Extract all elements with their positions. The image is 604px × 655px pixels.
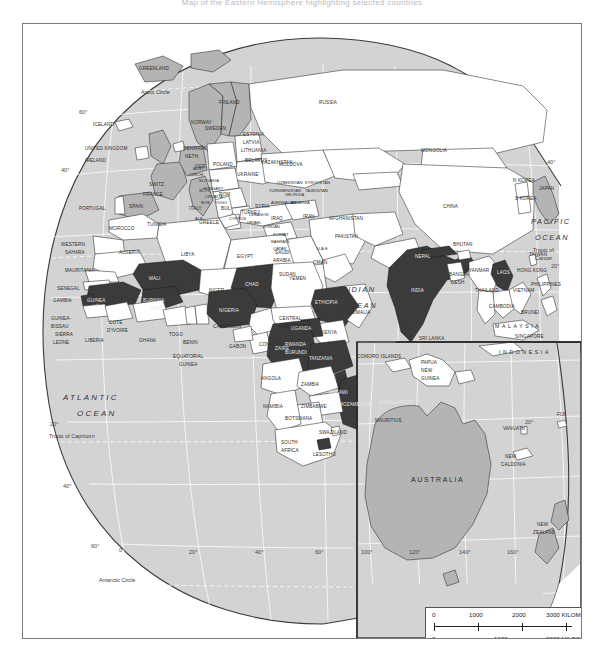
svg-text:100°: 100° [361,549,373,555]
svg-text:NEPAL: NEPAL [415,254,431,259]
svg-text:MALAWI: MALAWI [329,390,348,395]
svg-text:CAMBODIA: CAMBODIA [489,304,515,309]
svg-text:MAURITIUS: MAURITIUS [375,418,402,423]
svg-text:CZECH: CZECH [189,172,203,177]
svg-text:SPAIN: SPAIN [129,204,143,209]
svg-text:CHINA: CHINA [443,204,459,209]
svg-text:PAPUA: PAPUA [421,360,438,365]
svg-text:60°: 60° [315,549,323,555]
scale-km-3000: 3000 KILOMETERS [546,611,582,618]
svg-text:UGANDA: UGANDA [291,326,312,331]
svg-text:SLOV.: SLOV. [199,188,211,193]
svg-text:40°: 40° [61,167,69,173]
svg-text:ROM.: ROM. [219,192,232,197]
svg-text:GEORGIA: GEORGIA [285,192,304,197]
svg-text:LAOS: LAOS [497,270,510,275]
svg-text:YUGO.: YUGO. [215,200,228,205]
svg-text:ESTONIA: ESTONIA [243,132,265,137]
svg-text:BURKINA: BURKINA [143,298,165,303]
svg-text:60°: 60° [79,109,87,115]
svg-text:TAIWAN: TAIWAN [529,252,547,257]
svg-text:GHANA: GHANA [139,338,157,343]
svg-text:20°: 20° [525,419,533,425]
scale-mi-2000: 2000 MILES [546,635,580,639]
svg-text:GUINEA: GUINEA [421,376,440,381]
svg-text:S KOREA: S KOREA [515,196,537,201]
svg-text:JAPAN: JAPAN [539,186,554,191]
svg-text:KAZAKHSTAN: KAZAKHSTAN [261,160,293,165]
svg-text:AUST.: AUST. [193,166,205,171]
svg-text:RUSSIA: RUSSIA [319,100,338,105]
svg-text:GUINEA: GUINEA [179,362,198,367]
svg-text:FRANCE: FRANCE [143,192,163,197]
svg-text:20°: 20° [551,263,559,269]
svg-text:BUL.: BUL. [221,206,232,211]
svg-text:SWITZ.: SWITZ. [149,182,165,187]
svg-text:MOZAMBIQUE: MOZAMBIQUE [339,402,372,407]
map-frame: ATLANTIC OCEAN INDIAN OCEAN PACIFIC OCEA… [22,23,582,639]
svg-text:OCEAN: OCEAN [77,409,116,418]
svg-text:160°: 160° [507,549,519,555]
svg-text:40°: 40° [255,549,263,555]
svg-text:UKRAINE: UKRAINE [237,172,258,177]
svg-text:CAMEROON: CAMEROON [213,324,241,329]
svg-text:VIETNAM: VIETNAM [513,288,534,293]
svg-text:IRAN: IRAN [303,214,315,219]
svg-text:FASO: FASO [151,306,164,311]
svg-text:DESH: DESH [451,280,464,285]
svg-text:OCEAN: OCEAN [535,233,569,242]
svg-text:120°: 120° [409,549,421,555]
svg-text:MYANMAR: MYANMAR [465,268,490,273]
svg-text:GABON: GABON [229,344,246,349]
scale-mi-0: 0 [432,635,435,639]
svg-text:TUNISIA: TUNISIA [147,222,167,227]
scale-bar-graphic [434,623,572,631]
scale-km-2000: 2000 [512,611,526,618]
svg-text:N KOREA: N KOREA [513,178,536,183]
scale-km-0: 0 [432,611,435,618]
svg-text:BRUNEI: BRUNEI [521,310,539,315]
map-title: Map of the Eastern Hemisphere highlighti… [0,0,604,7]
svg-text:QATAR: QATAR [273,246,287,251]
svg-text:AZERBAIJAN: AZERBAIJAN [271,200,296,205]
svg-text:ARABIA: ARABIA [273,258,292,263]
svg-text:BOTSWANA: BOTSWANA [285,416,313,421]
svg-text:ZAMBIA: ZAMBIA [301,382,320,387]
svg-text:40°: 40° [63,483,71,489]
svg-text:SOMALIA: SOMALIA [349,310,371,315]
world-map-svg: ATLANTIC OCEAN INDIAN OCEAN PACIFIC OCEA… [23,24,581,638]
svg-text:BOS.: BOS. [201,200,211,205]
svg-text:UZBEKISTAN: UZBEKISTAN [277,180,302,185]
svg-text:40°: 40° [547,159,555,165]
svg-text:SIERRA: SIERRA [55,332,74,337]
scale-bar: 0 1000 2000 3000 KILOMETERS 0 1000 2000 … [425,607,582,639]
svg-text:0°: 0° [119,547,124,553]
svg-text:LIBYA: LIBYA [181,252,195,257]
svg-text:KUWAIT: KUWAIT [273,232,289,237]
svg-text:POLAND: POLAND [213,162,233,167]
svg-text:NIGER: NIGER [209,288,225,293]
inset-content [358,342,580,638]
svg-text:WESTERN: WESTERN [61,242,85,247]
svg-text:NEW: NEW [537,522,549,527]
svg-text:NEW: NEW [421,368,433,373]
svg-text:GUINEA: GUINEA [87,298,106,303]
svg-text:HONG KONG: HONG KONG [517,268,547,273]
svg-text:NAMIBIA: NAMIBIA [263,404,284,409]
svg-text:KYRGYSTAN: KYRGYSTAN [305,180,330,185]
svg-text:IRELAND: IRELAND [85,158,106,163]
svg-text:UNITED KINGDOM: UNITED KINGDOM [85,146,127,151]
svg-text:NIGERIA: NIGERIA [219,308,240,313]
svg-text:Arctic Circle: Arctic Circle [141,89,170,95]
svg-text:NEW: NEW [505,454,517,459]
svg-text:BISSAU: BISSAU [51,324,69,329]
svg-text:GAMBIA: GAMBIA [53,298,73,303]
svg-text:KENYA: KENYA [321,330,338,335]
svg-text:ANGOLA: ANGOLA [261,376,282,381]
svg-text:SLOVAKIA: SLOVAKIA [199,178,219,183]
svg-text:JORDAN: JORDAN [263,224,280,229]
scale-mi-1000: 1000 [494,635,508,639]
svg-text:INDONESIA: INDONESIA [499,349,551,355]
svg-text:SOUTH: SOUTH [281,440,298,445]
svg-text:OMAN: OMAN [313,260,327,265]
